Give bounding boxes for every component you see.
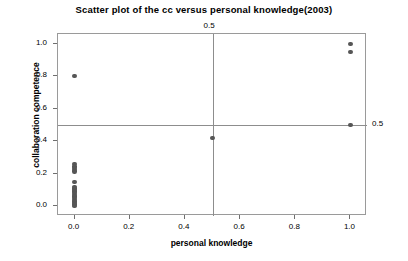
y-axis-tick-label: 0.8: [23, 70, 47, 79]
chart-title: Scatter plot of the cc versus personal k…: [0, 4, 408, 15]
plot-area: [57, 33, 366, 215]
data-point: [72, 74, 76, 78]
y-axis-tick-label: 0.0: [23, 200, 47, 209]
data-point: [72, 169, 76, 173]
x-axis-tick-label: 0.0: [59, 222, 89, 231]
x-axis-tick: [129, 215, 130, 219]
data-point: [210, 136, 214, 140]
horizontal-reference-line: [58, 125, 367, 126]
x-axis-tick: [184, 215, 185, 219]
scatter-plot-figure: Scatter plot of the cc versus personal k…: [0, 0, 408, 261]
y-axis-tick-label: 0.6: [23, 103, 47, 112]
x-axis-tick-label: 1.0: [334, 222, 364, 231]
y-axis-tick-label: 0.2: [23, 168, 47, 177]
data-point: [348, 50, 352, 54]
x-axis-tick-label: 0.2: [114, 222, 144, 231]
vertical-reference-line-label: 0.5: [204, 21, 215, 30]
data-point: [72, 204, 76, 208]
x-axis-tick-label: 0.4: [169, 222, 199, 231]
x-axis-label: personal knowledge: [57, 238, 366, 248]
y-axis-tick-label: 1.0: [23, 38, 47, 47]
x-axis-tick-label: 0.8: [279, 222, 309, 231]
x-axis-tick: [239, 215, 240, 219]
x-axis-tick: [74, 215, 75, 219]
data-point: [348, 42, 352, 46]
data-point: [348, 123, 352, 127]
y-axis-tick-label: 0.4: [23, 135, 47, 144]
x-axis-tick-label: 0.6: [224, 222, 254, 231]
horizontal-reference-line-label: 0.5: [372, 119, 383, 128]
x-axis-tick: [349, 215, 350, 219]
x-axis-tick: [294, 215, 295, 219]
y-axis-label: collaboration competence: [31, 24, 41, 206]
data-point: [72, 180, 76, 184]
